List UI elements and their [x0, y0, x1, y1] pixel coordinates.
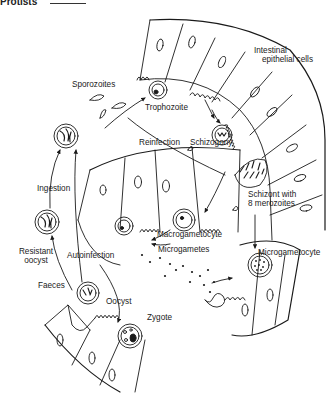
label-ingestion: Ingestion [37, 184, 70, 193]
label-trophozoite: Trophozoite [145, 103, 188, 112]
label-schizogony: Schizogony [190, 138, 232, 147]
label-schizont-2: 8 merozoites [248, 199, 295, 208]
epithelium-top-right [137, 19, 325, 240]
merozoites-free [188, 146, 238, 210]
label-reinfection: Reinfection [139, 138, 180, 147]
label-resistant-2: oocyst [16, 256, 56, 265]
life-cycle-diagram: Protists [0, 0, 329, 401]
ingested-oocyst [54, 124, 78, 148]
label-intestinal-1: Intestinal [254, 46, 287, 55]
label-oocyst: Oocyst [106, 297, 131, 306]
resistant-oocyst [35, 210, 59, 234]
label-schizont-1: Schizont with [248, 190, 296, 199]
label-zygote: Zygote [147, 313, 172, 322]
label-resistant-1: Resistant [16, 247, 56, 256]
label-intestinal-2: epithelial cells [262, 55, 313, 64]
label-autoinfection: Autoinfection [67, 251, 114, 260]
label-faeces: Faeces [38, 281, 65, 290]
label-microgametes: Microgametes [158, 245, 209, 254]
label-macrogametocyte: Macrogametocyte [157, 230, 222, 239]
microgametes [141, 254, 215, 293]
label-microgametocyte: Microgametocyte [258, 248, 320, 257]
label-sporozoites: Sporozoites [72, 80, 115, 89]
